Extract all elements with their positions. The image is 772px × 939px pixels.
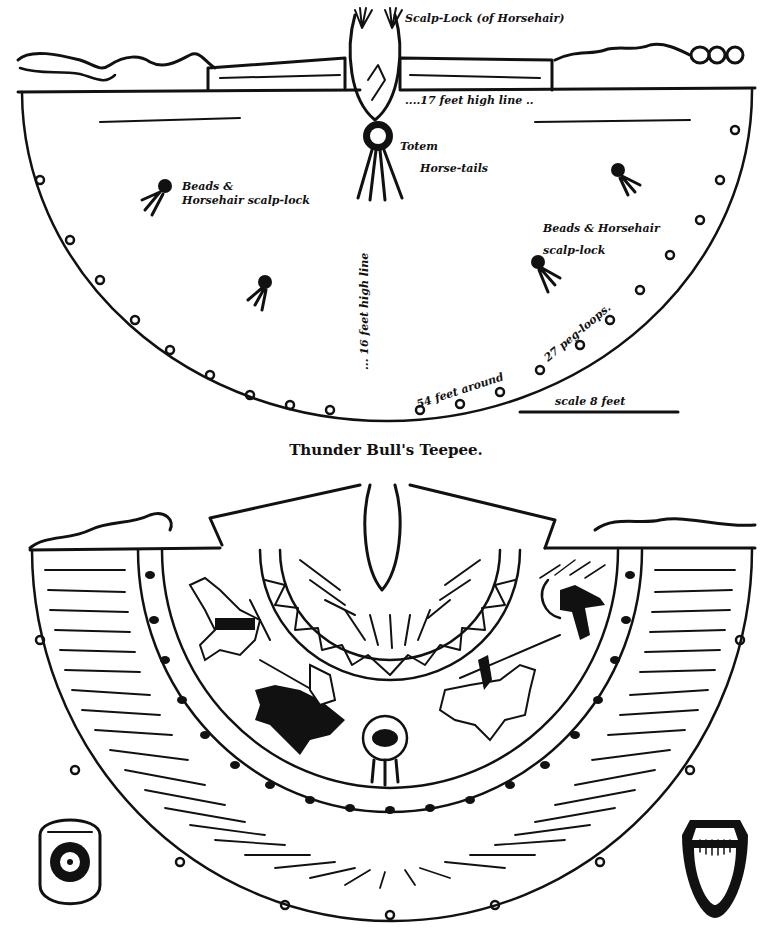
label-scalp-lock: Scalp-Lock (of Horsehair) — [405, 12, 565, 25]
totem-horse-tails-icon — [358, 121, 402, 200]
label-beads-left-1: Beads & — [181, 180, 233, 193]
smoke-flaps-bottom — [210, 485, 555, 548]
bottom-teepee-diagram — [30, 485, 755, 921]
label-horse-tails: Horse-tails — [419, 162, 488, 175]
top-edge — [18, 88, 755, 92]
top-teepee-diagram: Scalp-Lock (of Horsehair) ....17 feet hi… — [18, 8, 755, 421]
rope-left — [18, 53, 215, 68]
warrior-on-black-horse-figure — [255, 660, 345, 755]
rope-left-2 — [20, 68, 115, 80]
label-totem: Totem — [400, 140, 438, 153]
label-beads-right-1: Beads & Horsehair — [542, 222, 661, 235]
fringed-pouch-icon — [682, 820, 748, 918]
warrior-with-lance-figure — [440, 635, 560, 740]
inner-sun-arc-inner — [280, 550, 500, 660]
scalp-lock-icons — [355, 8, 402, 28]
peg-loops — [36, 126, 739, 414]
rope-right-bottom — [595, 519, 755, 530]
radial-lines-bottom — [310, 868, 450, 888]
smoke-flap-left — [208, 58, 345, 90]
label-circumference: 54 feet around — [415, 370, 506, 410]
sun-rays — [300, 560, 480, 648]
label-scale: scale 8 feet — [555, 395, 625, 408]
rope-right — [555, 44, 690, 60]
label-height-line-top: ....17 feet high line .. — [405, 94, 534, 107]
sun-medallion-shield-icon — [40, 820, 100, 904]
label-beads-right-2: scalp-lock — [543, 244, 606, 257]
door-figure — [368, 65, 385, 100]
warrior-with-bow-figure — [540, 560, 605, 640]
smoke-flap-right — [400, 58, 552, 90]
rope-loops-right — [691, 47, 743, 63]
door-opening — [350, 15, 400, 120]
label-peg-loops: 27 peg-loops. — [541, 301, 614, 365]
label-beads-left-2: Horsehair scalp-lock — [181, 194, 310, 207]
teepee-illustration: Scalp-Lock (of Horsehair) ....17 feet hi… — [0, 0, 772, 939]
figure-caption: Thunder Bull's Teepee. — [289, 441, 483, 459]
rope-left-bottom — [30, 514, 171, 548]
label-height-line-center: ... 16 feet high line — [358, 253, 371, 370]
peg-loops-bottom — [36, 636, 744, 919]
spotted-horse-figure — [190, 578, 270, 660]
door-bottom — [365, 485, 400, 590]
buffalo-shield-icon — [363, 716, 407, 785]
